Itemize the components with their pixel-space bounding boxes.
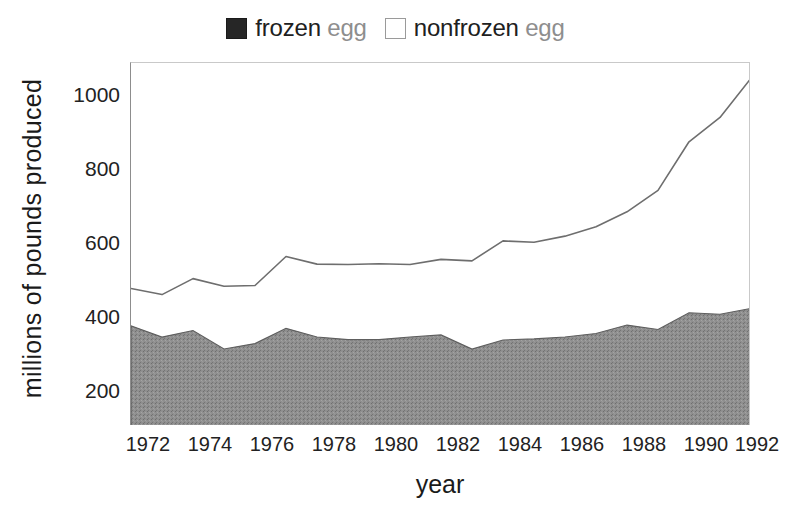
- legend-item-nonfrozen-egg: nonfrozen egg: [385, 14, 565, 42]
- legend-suffix-nonfrozen: egg: [525, 14, 564, 41]
- hollow-square-icon: [385, 18, 406, 39]
- y-tick-label: 200: [54, 380, 120, 401]
- filled-square-icon: [226, 18, 247, 39]
- legend-suffix-frozen: egg: [327, 14, 366, 41]
- y-axis-title: millions of pounds produced: [18, 54, 47, 424]
- x-tick-label: 1976: [237, 432, 307, 456]
- x-tick-label: 1986: [547, 432, 617, 456]
- x-axis-ticks: 1972 1974 1976 1978 1980 1982 1984 1986 …: [0, 432, 791, 462]
- nonfrozen-egg-area: [131, 78, 750, 294]
- x-tick-label: 1984: [485, 432, 555, 456]
- x-tick-label: 1982: [423, 432, 493, 456]
- x-tick-label: 1972: [113, 432, 183, 456]
- x-axis-title: year: [130, 470, 750, 499]
- x-tick-label: 1978: [299, 432, 369, 456]
- legend-item-frozen-egg: frozen egg: [226, 14, 366, 42]
- area-series-svg: [131, 63, 750, 425]
- legend-keyword-nonfrozen: nonfrozen: [414, 14, 519, 41]
- legend-keyword-frozen: frozen: [255, 14, 321, 41]
- y-tick-label: 600: [54, 232, 120, 253]
- plot-area: [130, 62, 750, 425]
- x-tick-label: 1974: [175, 432, 245, 456]
- x-tick-label: 1980: [361, 432, 431, 456]
- legend-label-nonfrozen-egg: nonfrozen egg: [414, 14, 565, 42]
- chart-figure: frozen egg nonfrozen egg 1000 800: [0, 0, 791, 529]
- x-tick-label: 1988: [609, 432, 679, 456]
- y-tick-label: 800: [54, 158, 120, 179]
- y-tick-label: 400: [54, 306, 120, 327]
- y-tick-label: 1000: [54, 84, 120, 105]
- x-tick-label: 1992: [722, 432, 791, 456]
- frozen-egg-area: [131, 308, 750, 425]
- legend-label-frozen-egg: frozen egg: [255, 14, 366, 42]
